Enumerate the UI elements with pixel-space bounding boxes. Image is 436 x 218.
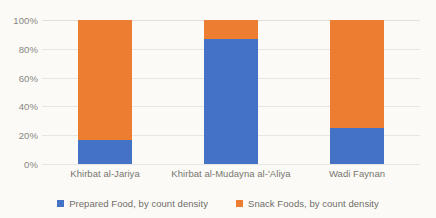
y-axis-tick-label: 40% — [0, 101, 38, 112]
y-axis-tick-label: 80% — [0, 43, 38, 54]
bar-segment[interactable] — [330, 20, 384, 128]
bar-segment[interactable] — [78, 20, 132, 140]
y-axis: 0%20%40%60%80%100% — [0, 20, 38, 164]
bar-group[interactable] — [330, 20, 384, 164]
plot-area — [42, 20, 420, 164]
legend-item[interactable]: Prepared Food, by count density — [57, 198, 208, 209]
bar-segment[interactable] — [78, 140, 132, 164]
chart-legend: Prepared Food, by count densitySnack Foo… — [0, 198, 436, 209]
x-axis-category-label: Khirbat al-Jariya — [70, 168, 140, 179]
y-axis-tick-label: 60% — [0, 72, 38, 83]
gridline — [42, 164, 420, 165]
legend-swatch-icon — [236, 200, 243, 207]
y-axis-tick-label: 20% — [0, 130, 38, 141]
legend-item[interactable]: Snack Foods, by count density — [236, 198, 379, 209]
bar-segment[interactable] — [204, 20, 258, 39]
chart-screenshot: 0%20%40%60%80%100% Khirbat al-JariyaKhir… — [0, 0, 436, 218]
legend-label: Prepared Food, by count density — [69, 198, 208, 209]
x-axis-category-label: Khirbat al-Mudayna al-'Aliya — [171, 168, 290, 179]
legend-swatch-icon — [57, 200, 64, 207]
bar-group[interactable] — [204, 20, 258, 164]
bar-segment[interactable] — [330, 128, 384, 164]
legend-label: Snack Foods, by count density — [248, 198, 379, 209]
y-axis-tick-label: 0% — [0, 159, 38, 170]
bar-segment[interactable] — [204, 39, 258, 164]
x-axis: Khirbat al-JariyaKhirbat al-Mudayna al-'… — [42, 168, 420, 186]
bar-group[interactable] — [78, 20, 132, 164]
x-axis-category-label: Wadi Faynan — [329, 168, 385, 179]
y-axis-tick-label: 100% — [0, 15, 38, 26]
